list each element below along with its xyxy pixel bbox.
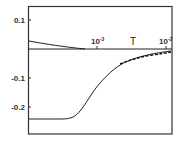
- x-tick-label: 10-3: [91, 36, 105, 46]
- y-tick-label: -0.1: [11, 74, 25, 83]
- x-tick-label: 10-2: [159, 36, 173, 46]
- chart: 0.1 -0.1 -0.2 10-3 10-2 T: [0, 0, 181, 146]
- plot-frame: [29, 7, 173, 135]
- x-axis-title: T: [130, 36, 136, 47]
- y-tick-label: -0.2: [11, 103, 25, 112]
- series-lower-solid-curve: [29, 51, 171, 119]
- y-tick-label: 0.1: [14, 16, 26, 25]
- series-upper-curve: [29, 41, 85, 49]
- series-lower-dashed-curve: [120, 52, 171, 64]
